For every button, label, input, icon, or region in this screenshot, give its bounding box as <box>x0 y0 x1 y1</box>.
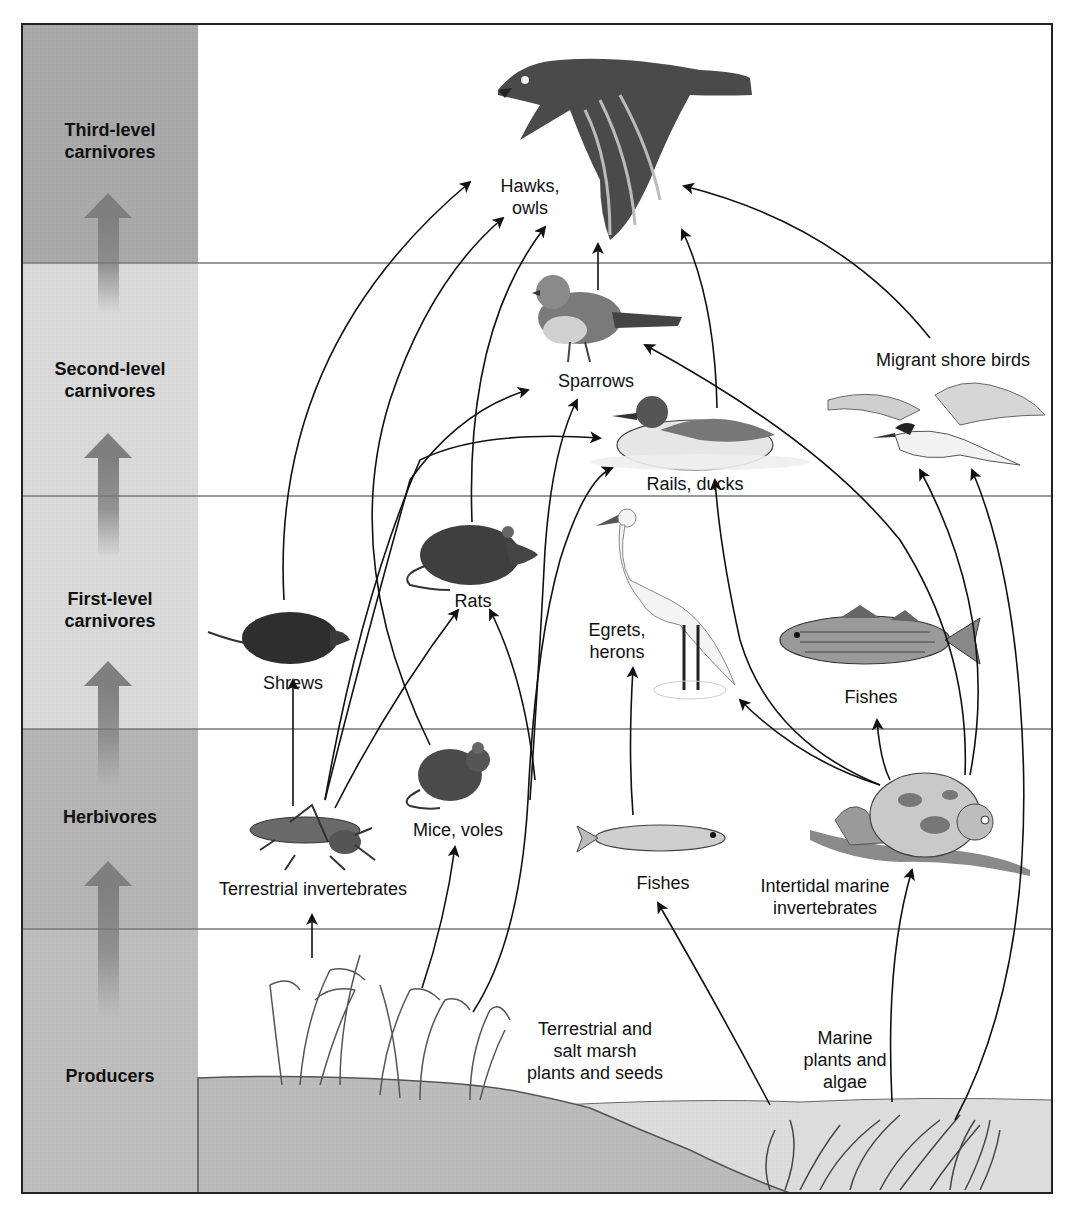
arrow-rails-to-hawks <box>682 230 717 408</box>
label-shrews: Shrews <box>248 672 338 694</box>
food-web-diagram: Third-level carnivores Second-level carn… <box>0 0 1072 1211</box>
small-fish-icon <box>577 825 725 852</box>
level-label-first: First-level carnivores <box>22 588 198 632</box>
shrew-icon <box>208 612 350 664</box>
grasshopper-icon <box>250 805 375 870</box>
label-sparrows: Sparrows <box>536 370 656 392</box>
egret-icon <box>596 509 735 699</box>
label-terrestrial-invertebrates: Terrestrial invertebrates <box>198 878 428 900</box>
label-fishes-lower: Fishes <box>618 872 708 894</box>
label-rails-ducks: Rails, ducks <box>630 473 760 495</box>
arrow-mice-to-hawks <box>372 218 503 745</box>
rat-icon <box>407 525 538 590</box>
arrow-snail-to-egrets <box>740 700 880 785</box>
landscape <box>198 1076 1052 1193</box>
label-marine-plants-algae: Marine plants and algae <box>795 1027 895 1093</box>
arrow-plants-to-sparrows <box>530 400 577 800</box>
level-label-herbivores: Herbivores <box>22 806 198 828</box>
label-terrestrial-salt-marsh-plants: Terrestrial and salt marsh plants and se… <box>510 1018 680 1084</box>
label-mice-voles: Mice, voles <box>398 819 518 841</box>
level-label-producers: Producers <box>22 1065 198 1087</box>
level-label-second: Second-level carnivores <box>22 358 198 402</box>
sparrow-icon <box>532 275 682 362</box>
label-egrets-herons: Egrets, herons <box>572 619 662 663</box>
snail-icon <box>810 773 1030 876</box>
arrow-rats-to-hawks <box>471 227 545 522</box>
level-label-third: Third-level carnivores <box>22 119 198 163</box>
striped-fish-icon <box>780 605 980 664</box>
label-intertidal-marine-invertebrates: Intertidal marine invertebrates <box>745 875 905 919</box>
arrow-plants-to-mice <box>422 847 455 988</box>
label-rats: Rats <box>438 590 508 612</box>
label-migrant-shore-birds: Migrant shore birds <box>858 349 1048 371</box>
duck-icon <box>590 396 810 470</box>
mouse-icon <box>407 742 490 809</box>
tern-icon <box>828 383 1045 465</box>
arrow-shorebirds-to-hawks <box>684 186 930 338</box>
arrow-fishes-to-egrets <box>631 668 634 815</box>
arrow-plants-to-rats <box>490 610 535 780</box>
label-hawks-owls: Hawks, owls <box>490 175 570 219</box>
label-fishes-upper: Fishes <box>826 686 916 708</box>
arrow-invert-to-rails <box>325 436 600 800</box>
